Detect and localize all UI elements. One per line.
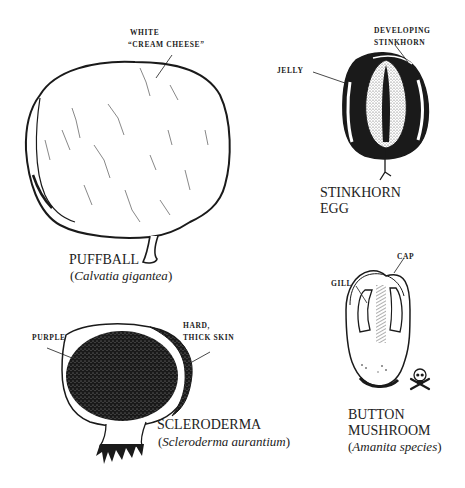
skull-and-crossbones-icon <box>411 369 429 389</box>
mushroom-title-line2: MUSHROOM <box>348 423 430 439</box>
scleroderma-label-hard: HARD, <box>183 321 210 331</box>
mushroom-label-cap: CAP <box>397 252 414 262</box>
mushroom-scientific-name: (Amanita species) <box>348 439 442 454</box>
button-mushroom-illustration <box>346 258 410 387</box>
puffball-illustration <box>26 55 230 263</box>
puffball-title: PUFFBALL <box>69 252 139 268</box>
stinkhorn-title-line2: EGG <box>320 201 349 217</box>
puffball-scientific-name: (Calvatia gigantea) <box>70 268 172 283</box>
scleroderma-scientific-italic: Scleroderma aurantium <box>162 434 285 449</box>
scleroderma-label-thick-skin: THICK SKIN <box>183 333 234 343</box>
puffball-label-white: WHITE <box>130 28 159 38</box>
stinkhorn-label-stinkhorn: STINKHORN <box>374 38 425 48</box>
stinkhorn-label-developing: DEVELOPING <box>374 26 430 36</box>
stinkhorn-title-line1: STINKHORN <box>320 185 401 201</box>
scleroderma-label-purple: PURPLE <box>32 333 66 343</box>
puffball-label-cream-cheese: “CREAM CHEESE” <box>128 40 205 50</box>
scleroderma-title: SCLERODERMA <box>157 417 261 433</box>
scleroderma-scientific-name: (Scleroderma aurantium) <box>158 434 290 449</box>
stinkhorn-egg-illustration <box>313 45 428 180</box>
stinkhorn-label-jelly: JELLY <box>277 66 304 76</box>
mushroom-label-gill: GILL <box>331 279 352 289</box>
puffball-scientific-italic: Calvatia gigantea <box>74 268 168 283</box>
mushroom-title-line1: BUTTON <box>348 407 405 423</box>
mushroom-scientific-italic: Amanita species <box>352 439 437 454</box>
